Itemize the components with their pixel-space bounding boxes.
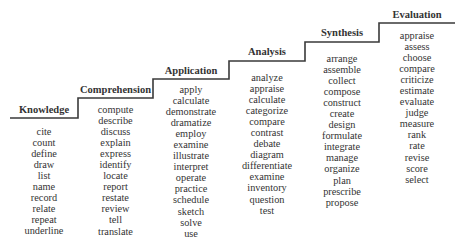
level-title-comprehension: Comprehension	[78, 84, 153, 95]
verb: question	[229, 194, 305, 205]
verb: select	[379, 174, 455, 185]
verb: manage	[305, 152, 379, 163]
verb: choose	[379, 52, 455, 63]
verb: schedule	[153, 194, 229, 205]
verb: revise	[379, 152, 455, 163]
level-title-analysis: Analysis	[229, 46, 305, 57]
verb: construct	[305, 97, 379, 108]
verb-list-comprehension: compute describe discuss explain express…	[78, 104, 153, 237]
verb: describe	[78, 115, 153, 126]
level-title-application: Application	[153, 65, 229, 76]
verb-list-knowledge: cite count define draw list name record …	[10, 126, 78, 236]
verb: prescribe	[305, 186, 379, 197]
verb: translate	[78, 226, 153, 237]
level-evaluation: Evaluation appraise assess choose compar…	[379, 0, 455, 244]
verb: name	[10, 181, 78, 192]
verb: define	[10, 148, 78, 159]
verb: demonstrate	[153, 106, 229, 117]
verb: appraise	[379, 30, 455, 41]
level-analysis: Analysis analyze appraise calculate cate…	[229, 0, 305, 244]
verb: criticize	[379, 74, 455, 85]
verb: count	[10, 137, 78, 148]
verb: contrast	[229, 127, 305, 138]
verb-list-synthesis: arrange assemble collect compose constru…	[305, 53, 379, 208]
verb: compare	[229, 116, 305, 127]
verb: examine	[153, 139, 229, 150]
verb: repeat	[10, 214, 78, 225]
verb: employ	[153, 128, 229, 139]
verb: explain	[78, 137, 153, 148]
level-comprehension: Comprehension compute describe discuss e…	[78, 0, 153, 244]
verb: practice	[153, 183, 229, 194]
verb: plan	[305, 175, 379, 186]
verb: compute	[78, 104, 153, 115]
verb: propose	[305, 197, 379, 208]
verb: examine	[229, 171, 305, 182]
level-synthesis: Synthesis arrange assemble collect compo…	[305, 0, 379, 244]
verb: tell	[78, 214, 153, 225]
verb: integrate	[305, 141, 379, 152]
verb: evaluate	[379, 96, 455, 107]
level-application: Application apply calculate demonstrate …	[153, 0, 229, 244]
verb: underline	[10, 225, 78, 236]
verb: apply	[153, 84, 229, 95]
verb: debate	[229, 138, 305, 149]
verb: collect	[305, 75, 379, 86]
verb-list-evaluation: appraise assess choose compare criticize…	[379, 30, 455, 185]
verb: sketch	[153, 206, 229, 217]
verb: assemble	[305, 64, 379, 75]
verb: discuss	[78, 126, 153, 137]
verb: arrange	[305, 53, 379, 64]
verb-list-analysis: analyze appraise calculate categorize co…	[229, 72, 305, 216]
verb: use	[153, 228, 229, 239]
verb: design	[305, 119, 379, 130]
verb: judge	[379, 107, 455, 118]
verb: appraise	[229, 83, 305, 94]
verb: formulate	[305, 130, 379, 141]
verb: rank	[379, 129, 455, 140]
verb: estimate	[379, 85, 455, 96]
verb: score	[379, 163, 455, 174]
verb: calculate	[153, 95, 229, 106]
verb: create	[305, 108, 379, 119]
verb: differentiate	[229, 160, 305, 171]
verb: identify	[78, 159, 153, 170]
verb: record	[10, 192, 78, 203]
verb: test	[229, 205, 305, 216]
verb: assess	[379, 41, 455, 52]
verb: inventory	[229, 182, 305, 193]
verb: rate	[379, 140, 455, 151]
level-title-knowledge: Knowledge	[10, 104, 78, 115]
verb: compare	[379, 63, 455, 74]
verb: measure	[379, 118, 455, 129]
verb: interpret	[153, 161, 229, 172]
level-knowledge: Knowledge cite count define draw list na…	[10, 0, 78, 244]
verb: draw	[10, 159, 78, 170]
verb: operate	[153, 172, 229, 183]
level-title-evaluation: Evaluation	[379, 9, 455, 20]
verb: diagram	[229, 149, 305, 160]
verb: analyze	[229, 72, 305, 83]
verb: list	[10, 170, 78, 181]
verb: report	[78, 181, 153, 192]
verb: restate	[78, 192, 153, 203]
verb: dramatize	[153, 117, 229, 128]
verb: organize	[305, 163, 379, 174]
verb: illustrate	[153, 150, 229, 161]
verb: categorize	[229, 105, 305, 116]
verb-list-application: apply calculate demonstrate dramatize em…	[153, 84, 229, 239]
verb: locate	[78, 170, 153, 181]
verb: compose	[305, 86, 379, 97]
verb: express	[78, 148, 153, 159]
verb: review	[78, 203, 153, 214]
verb: calculate	[229, 94, 305, 105]
level-title-synthesis: Synthesis	[305, 27, 379, 38]
verb: relate	[10, 203, 78, 214]
verb: cite	[10, 126, 78, 137]
verb: solve	[153, 217, 229, 228]
